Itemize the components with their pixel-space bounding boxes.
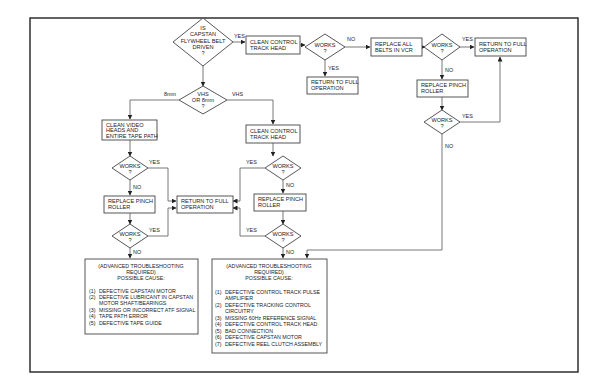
label-yes: YES xyxy=(234,33,245,39)
flowchart-text: OPERATION xyxy=(311,85,344,91)
box-replace-pinch-roller-vhs: REPLACE PINCH ROLLER xyxy=(254,194,306,211)
flowchart-text: (7) xyxy=(215,341,222,347)
label-8mm: 8mm xyxy=(164,91,176,97)
flowchart-text: TRACK HEAD xyxy=(250,134,286,140)
box-return-to-full-operation-1: RETURN TO FULL OPERATION xyxy=(307,77,359,94)
flowchart-text: ? xyxy=(128,237,131,243)
flowchart-text: (2) xyxy=(89,294,96,300)
decision-works-vhs-1: WORKS ? xyxy=(265,156,301,180)
flowchart-text: (4) xyxy=(89,313,96,319)
decision-works-vhs-2: WORKS ? xyxy=(265,224,301,248)
label-no: NO xyxy=(133,184,141,190)
box-return-to-full-operation-3: RETURN TO FULL OPERATION xyxy=(177,196,233,213)
decision-vhs-or-8mm: VHS OR 8mm ? xyxy=(179,86,227,114)
flowchart-text: TAPE PATH ERROR xyxy=(99,313,148,319)
flowchart-text: ROLLER xyxy=(108,204,130,210)
box-advanced-troubleshooting-8mm: (ADVANCED TROUBLESHOOTING REQUIRED) POSS… xyxy=(85,259,198,334)
flowchart-text: ROLLER xyxy=(258,202,280,208)
label-yes: YES xyxy=(246,227,257,233)
flowchart-text: CAPSTAN xyxy=(190,31,216,37)
label-no: NO xyxy=(286,182,294,188)
vcr-troubleshooting-flowchart: YES NO YES YES NO YES NO 8mm VHS YES NO … xyxy=(0,0,605,389)
box-clean-control-track-head-vhs: CLEAN CONTROL TRACK HEAD xyxy=(246,125,300,143)
decision-belt-driven: IS CAPSTAN FLYWHEEL BELT DRIVEN ? xyxy=(173,18,233,66)
flowchart-text: ? xyxy=(323,48,326,54)
connectors xyxy=(130,42,500,258)
box-clean-video-heads: CLEAN VIDEO HEADS AND ENTIRE TAPE PATH xyxy=(102,120,158,140)
decision-works-2: WORKS ? xyxy=(424,34,460,60)
flowchart-text: ? xyxy=(281,169,284,175)
flowchart-text: MOTOR SHAFT/BEARINGS xyxy=(99,300,167,306)
flowchart-text: POSSIBLE CAUSE: xyxy=(245,275,292,281)
flowchart-text: DEFECTIVE REEL CLUTCH ASSEMBLY xyxy=(225,341,323,347)
flowchart-text: OPERATION xyxy=(479,47,512,53)
flowchart-text: DEFECTIVE CAPSTAN MOTOR xyxy=(225,334,302,340)
flowchart-text: OPERATION xyxy=(181,204,214,210)
flowchart-text: ? xyxy=(201,103,204,109)
flowchart-text: ? xyxy=(281,237,284,243)
flowchart-text: DEFECTIVE TAPE GUIDE xyxy=(99,320,162,326)
decision-works-8mm-2: WORKS ? xyxy=(112,224,148,248)
label-no: NO xyxy=(133,249,141,255)
flowchart-text: ? xyxy=(128,169,131,175)
flowchart-text: BELTS IN VCR xyxy=(375,47,413,53)
flowchart-text: ? xyxy=(440,48,443,54)
label-no: NO xyxy=(347,36,355,42)
label-yes: YES xyxy=(462,36,473,42)
label-no: NO xyxy=(445,143,453,149)
decision-works-3: WORKS ? xyxy=(424,110,460,134)
flowchart-text: ENTIRE TAPE PATH xyxy=(106,133,158,139)
flowchart-text: POSSIBLE CAUSE: xyxy=(117,275,164,281)
box-replace-pinch-roller-8mm: REPLACE PINCH ROLLER xyxy=(104,196,155,213)
box-advanced-troubleshooting-vhs: (ADVANCED TROUBLESHOOTING REQUIRED) POSS… xyxy=(212,259,327,353)
flowchart-text: DEFECTIVE CONTROL TRACK HEAD xyxy=(225,321,318,327)
flowchart-text: ? xyxy=(440,123,443,129)
flowchart-text: AMPLIFIER xyxy=(225,295,253,301)
flowchart-text: ROLLER xyxy=(421,88,443,94)
box-return-to-full-operation-2: RETURN TO FULL OPERATION xyxy=(475,38,527,56)
decision-works-1: WORKS ? xyxy=(305,34,345,60)
flowchart-text: (6) xyxy=(215,334,222,340)
flowchart-text: (2) xyxy=(215,302,222,308)
flowchart-text: (4) xyxy=(215,321,222,327)
flowchart-text: ? xyxy=(201,50,204,56)
box-replace-pinch-roller-belt: REPLACE PINCH ROLLER xyxy=(417,80,468,97)
flowchart-text: (1) xyxy=(215,289,222,295)
label-yes: YES xyxy=(328,65,339,71)
label-yes: YES xyxy=(462,113,473,119)
label-no: NO xyxy=(286,249,294,255)
label-yes: YES xyxy=(149,159,160,165)
label-yes: YES xyxy=(149,227,160,233)
decision-works-8mm-1: WORKS ? xyxy=(112,156,148,180)
flowchart-text: CIRCUITRY xyxy=(225,308,254,314)
label-no: NO xyxy=(445,67,453,73)
box-replace-all-belts: REPLACE ALL BELTS IN VCR xyxy=(371,38,422,56)
edge-labels: YES NO YES YES NO YES NO 8mm VHS YES NO … xyxy=(133,33,473,255)
label-vhs: VHS xyxy=(232,91,243,97)
box-clean-control-track-head-top: CLEAN CONTROL TRACK HEAD xyxy=(246,36,300,54)
label-yes: YES xyxy=(246,159,257,165)
flowchart-text: (5) xyxy=(89,320,96,326)
flowchart-text: TRACK HEAD xyxy=(250,45,286,51)
